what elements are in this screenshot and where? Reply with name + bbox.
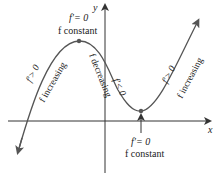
diagram-canvas: y x f′= 0 f constant f′= 0 f constant f′… [0, 0, 217, 173]
max-point [77, 39, 81, 43]
max-derivative-label: f′= 0 [69, 12, 88, 23]
min-derivative-label: f′= 0 [131, 136, 150, 147]
min-state-label: f constant [125, 148, 164, 159]
min-point [139, 109, 143, 113]
y-axis-label: y [92, 2, 98, 13]
middle-state-label: f decreasing [87, 52, 114, 99]
left-derivative-label: f′> 0 [24, 63, 42, 84]
right-state-label: f increasing [175, 56, 205, 100]
curve-left-arrow [18, 138, 22, 152]
derivative-diagram: y x f′= 0 f constant f′= 0 f constant f′… [0, 0, 217, 173]
x-axis-label: x [207, 124, 213, 135]
max-state-label: f constant [58, 25, 97, 36]
